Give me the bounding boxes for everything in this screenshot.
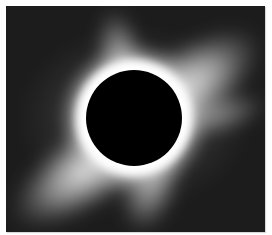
eclipse-photo: Black lunar disk surrounded by bright wh… bbox=[6, 6, 265, 232]
eclipse-svg bbox=[6, 6, 265, 232]
moon-disk bbox=[86, 70, 182, 166]
